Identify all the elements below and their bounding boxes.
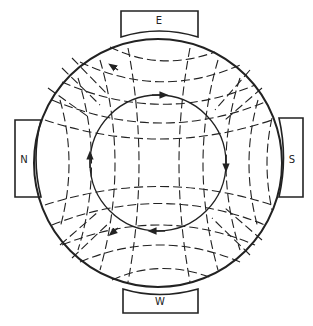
dashed-field-lines	[45, 47, 272, 282]
magnet-right-label: S	[289, 154, 295, 165]
magnet-bottom-label: W	[155, 296, 165, 307]
circulation-path	[90, 95, 226, 231]
magnetic-field-diagram: E W N S	[0, 0, 313, 326]
magnet-left-label: N	[20, 154, 27, 165]
arrow-small-icon	[112, 66, 118, 70]
magnet-top-label: E	[156, 15, 162, 26]
